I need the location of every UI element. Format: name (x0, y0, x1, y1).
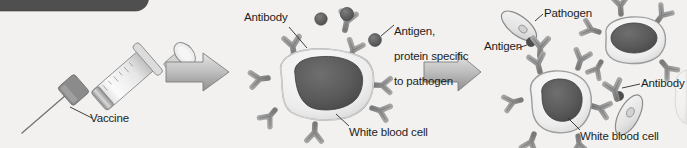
figure-canvas (0, 0, 687, 148)
immune-response-figure: Vaccine Antibody Antigen, protein specif… (0, 0, 687, 148)
antigen-dot-icon-free (315, 13, 327, 25)
label-antigen-note-line1: Antigen, (394, 25, 435, 37)
label-white-blood-cell-middle: White blood cell (349, 126, 428, 139)
label-antigen-note-line3: to pathogen (394, 75, 453, 87)
label-antigen-note-line2: protein specific (394, 50, 468, 62)
label-antibody-middle: Antibody (244, 11, 288, 24)
label-vaccine: Vaccine (90, 112, 129, 125)
label-pathogen: Pathogen (544, 7, 592, 20)
label-antigen-note: Antigen, protein specific to pathogen (394, 12, 468, 87)
top-dark-bar (0, 0, 149, 11)
label-antibody-right: Antibody (641, 77, 685, 90)
label-white-blood-cell-right: White blood cell (580, 130, 659, 143)
label-antigen-right: Antigen (484, 40, 522, 53)
